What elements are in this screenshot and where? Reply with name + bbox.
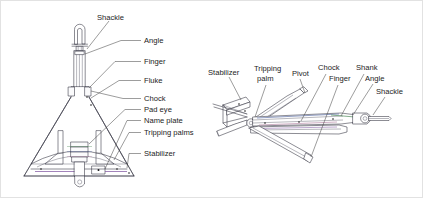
label-left-shackle: Shackle (97, 13, 124, 22)
label-left-name-plate: Name plate (144, 116, 183, 125)
label-right-stabilizer: Stabilizer (208, 68, 240, 77)
label-left-stabilizer: Stabilizer (144, 149, 176, 158)
label-right-chock: Chock (318, 63, 340, 72)
leader-finger (89, 62, 141, 89)
label-left-fluke: Fluke (144, 76, 163, 85)
label-right-finger: Finger (329, 74, 351, 83)
leader-stabilizer (127, 154, 141, 169)
right-stabilizer-part (213, 97, 250, 136)
leader-r-stabilizer (229, 77, 241, 100)
label-left-pad-eye: Pad eye (144, 105, 172, 114)
label-left-chock: Chock (144, 94, 166, 103)
label-right-pivot: Pivot (292, 69, 310, 78)
label-right-shackle: Shackle (376, 87, 403, 96)
leader-shackle (87, 21, 109, 49)
label-right-palm: palm (257, 74, 273, 83)
right-anchor-drawing (213, 74, 391, 163)
label-left-angle: Angle (144, 36, 163, 45)
label-left-tripping-palms: Tripping palms (144, 128, 194, 137)
left-pad-eye-part (71, 142, 88, 162)
label-left-finger: Finger (144, 57, 166, 66)
label-right-tripping: Tripping (254, 64, 281, 73)
label-right-angle: Angle (365, 74, 384, 83)
left-name-plate-part (92, 166, 105, 174)
left-anchor-drawing (24, 21, 141, 187)
leader-fluke (91, 81, 141, 99)
left-shackle-part (72, 24, 88, 50)
left-anchor-tip-part (75, 162, 85, 187)
label-right-shank: Shank (356, 63, 378, 72)
leader-angle (85, 41, 141, 55)
diagram-canvas: Shackle Angle Finger Fluke Chock Pad eye… (1, 1, 423, 198)
right-shackle-part (353, 113, 391, 124)
leader-r-shackle (373, 97, 385, 115)
anchor-diagram-figure: Shackle Angle Finger Fluke Chock Pad eye… (0, 0, 423, 198)
leader-chock (91, 91, 141, 99)
